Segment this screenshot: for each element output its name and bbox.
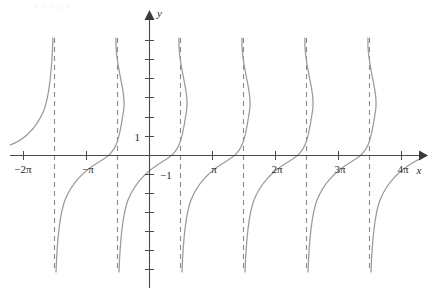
x-tick-label-group: −2π −π π 2π 3π 4π bbox=[14, 163, 409, 175]
tangent-branch bbox=[10, 38, 53, 145]
y-tick-label: −1 bbox=[160, 169, 172, 181]
tangent-function-graph: −2π −π π 2π 3π 4π 1 −1 y x bbox=[0, 0, 429, 295]
x-tick-label: π bbox=[211, 163, 217, 175]
x-axis-label: x bbox=[416, 164, 422, 176]
x-tick-label: −2π bbox=[14, 163, 32, 175]
x-tick-label: −π bbox=[82, 163, 94, 175]
y-tick-label: 1 bbox=[135, 131, 141, 143]
y-axis-label: y bbox=[156, 7, 162, 19]
x-tick-label: 2π bbox=[271, 163, 283, 175]
x-tick-label: 3π bbox=[334, 163, 346, 175]
x-tick-label: 4π bbox=[397, 163, 409, 175]
y-axis-arrowhead bbox=[145, 10, 155, 20]
x-axis-arrowhead bbox=[419, 151, 428, 161]
plot-svg: −2π −π π 2π 3π 4π 1 −1 y x bbox=[0, 0, 429, 295]
axis-label-group: y x bbox=[156, 7, 422, 176]
